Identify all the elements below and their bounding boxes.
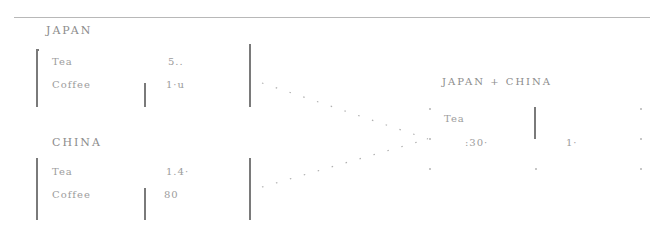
grid-dot <box>429 138 431 140</box>
grid-dot <box>640 138 642 140</box>
connector-lines <box>0 0 662 233</box>
grid-dot <box>535 168 537 170</box>
result-title: JAPAN + CHINA <box>442 76 552 87</box>
result-value: 1· <box>566 137 578 148</box>
grid-dot <box>640 108 642 110</box>
connector-japan <box>262 83 428 139</box>
grid-dot <box>429 168 431 170</box>
result-value: :30· <box>465 137 488 148</box>
grid-dot <box>429 108 431 110</box>
column-divider <box>534 107 536 139</box>
grid-dot <box>640 168 642 170</box>
result-row-label: Tea <box>444 113 465 124</box>
connector-china <box>262 139 428 187</box>
